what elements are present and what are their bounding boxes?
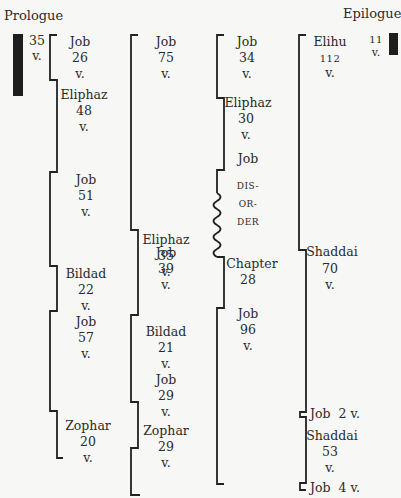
- col3-chapter-number: 28: [230, 272, 266, 287]
- book-of-job-structure-diagram: Prologue Epilogue 35 v. 11 v. Job 26 v. …: [0, 0, 401, 498]
- col1-bildad-speaker: Bildad: [64, 266, 108, 281]
- col3-disorder-2: OR-: [230, 197, 266, 212]
- column-2-bracket: [131, 35, 140, 495]
- col2-job-count: 75: [146, 50, 186, 65]
- col1-job-speaker: Job: [60, 34, 100, 49]
- col3-eliphaz-unit: v.: [228, 127, 264, 142]
- col1-job2-count: 51: [66, 188, 106, 203]
- col1-job-count: 26: [60, 50, 100, 65]
- col3-eliphaz-speaker: Eliphaz: [222, 95, 274, 110]
- col2-zophar-unit: v.: [142, 455, 190, 470]
- col3-job3-unit: v.: [230, 338, 266, 353]
- column-3-bracket: [217, 35, 224, 193]
- col1-eliphaz-speaker: Eliphaz: [58, 87, 110, 102]
- disorder-wave: [214, 193, 221, 257]
- col4-shaddai-count: 70: [312, 261, 348, 276]
- col2-job2-speaker-visible: Job: [146, 245, 186, 260]
- col3-disorder-1: DIS-: [230, 179, 266, 194]
- col4-job-4v: Job 4 v.: [310, 480, 360, 495]
- col1-bildad-count: 22: [64, 282, 108, 297]
- col2-job-unit: v.: [146, 66, 186, 81]
- col1-job3-speaker: Job: [66, 314, 106, 329]
- col1-job3-unit: v.: [66, 346, 106, 361]
- col2-job3-count: 29: [146, 388, 186, 403]
- column-4-bracket: [299, 35, 306, 490]
- col4-elihu-count: 112: [312, 51, 348, 66]
- col3-job3-count: 96: [230, 322, 266, 337]
- col3-job-speaker: Job: [229, 34, 265, 49]
- col2-bildad-speaker: Bildad: [144, 324, 188, 339]
- col4-elihu-speaker: Elihu: [312, 34, 348, 49]
- col3-job3-speaker: Job: [230, 306, 266, 321]
- col3-job-count: 34: [229, 50, 265, 65]
- col1-job2-unit: v.: [66, 204, 106, 219]
- col3-chapter-label: Chapter: [224, 256, 280, 271]
- col4-shaddai-unit: v.: [312, 277, 348, 292]
- col3-job-unit: v.: [229, 66, 265, 81]
- col2-job3-speaker: Job: [146, 372, 186, 387]
- col1-bildad-unit: v.: [64, 298, 108, 313]
- col1-zophar-speaker: Zophar: [64, 418, 112, 433]
- col2-zophar-count: 29: [142, 439, 190, 454]
- col2-job-speaker: Job: [146, 34, 186, 49]
- col3-disorder-3: DER: [230, 215, 266, 230]
- col3-job2-speaker: Job: [230, 151, 266, 166]
- col1-zophar-unit: v.: [64, 450, 112, 465]
- col2-job2-count: 39: [146, 261, 186, 276]
- col4-shaddai-speaker: Shaddai: [306, 244, 358, 259]
- col1-eliphaz-count: 48: [58, 103, 110, 118]
- col2-job2-unit: v.: [146, 277, 186, 292]
- col2-zophar-speaker: Zophar: [142, 423, 190, 438]
- col2-job3-unit: v.: [146, 404, 186, 419]
- col2-bildad-unit: v.: [144, 356, 188, 371]
- col1-eliphaz-unit: v.: [58, 119, 110, 134]
- col3-eliphaz-count: 30: [228, 111, 264, 126]
- col4-shaddai2-speaker: Shaddai: [306, 428, 358, 443]
- col4-shaddai2-count: 53: [312, 444, 348, 459]
- col1-zophar-count: 20: [64, 434, 112, 449]
- col1-job3-count: 57: [66, 330, 106, 345]
- col2-bildad-count: 21: [144, 340, 188, 355]
- col4-job-2v: Job 2 v.: [310, 406, 360, 421]
- col1-job-unit: v.: [60, 66, 100, 81]
- col1-job2-speaker: Job: [66, 172, 106, 187]
- col4-elihu-unit: v.: [312, 65, 348, 80]
- col4-shaddai2-unit: v.: [312, 460, 348, 475]
